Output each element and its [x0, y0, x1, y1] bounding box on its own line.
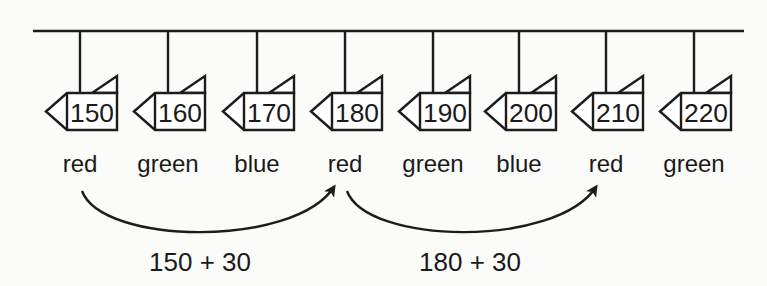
tag-value: 160: [158, 99, 202, 127]
tag-flag-icon: [618, 76, 643, 93]
diagram-canvas: 150red160green170blue180red190green200bl…: [0, 0, 767, 286]
array-stride-diagram: 150red160green170blue180red190green200bl…: [0, 0, 767, 286]
arrow-list: 150 + 30180 + 30: [82, 187, 596, 277]
tag-item: 210red: [572, 31, 643, 177]
tag-list: 150red160green170blue180red190green200bl…: [46, 31, 731, 177]
tag-item: 200blue: [485, 31, 556, 177]
color-label: blue: [496, 150, 541, 177]
curved-arrow-icon: [347, 187, 596, 232]
tag-flag-icon: [445, 76, 470, 93]
tag-item: 160green: [134, 31, 205, 177]
tag-item: 180red: [311, 31, 382, 177]
stride-arrow: 180 + 30: [347, 187, 596, 277]
tag-value: 210: [596, 99, 640, 127]
tag-flag-icon: [180, 76, 205, 93]
color-label: blue: [234, 150, 279, 177]
tag-value: 180: [335, 99, 379, 127]
tag-flag-icon: [357, 76, 382, 93]
curved-arrow-icon: [82, 187, 334, 232]
tag-value: 200: [509, 99, 553, 127]
tag-value: 150: [70, 99, 114, 127]
sum-label: 180 + 30: [419, 247, 521, 277]
tag-value: 190: [423, 99, 467, 127]
color-label: red: [328, 150, 363, 177]
sum-label: 150 + 30: [149, 247, 251, 277]
color-label: red: [63, 150, 98, 177]
color-label: green: [402, 150, 463, 177]
tag-item: 150red: [46, 31, 117, 177]
stride-arrow: 150 + 30: [82, 187, 334, 277]
color-label: green: [663, 150, 724, 177]
tag-flag-icon: [531, 76, 556, 93]
tag-item: 190green: [399, 31, 470, 177]
tag-value: 170: [247, 99, 291, 127]
tag-value: 220: [684, 99, 728, 127]
color-label: red: [589, 150, 624, 177]
color-label: green: [137, 150, 198, 177]
tag-flag-icon: [706, 76, 731, 93]
tag-item: 170blue: [223, 31, 294, 177]
tag-flag-icon: [269, 76, 294, 93]
tag-item: 220green: [660, 31, 731, 177]
tag-flag-icon: [92, 76, 117, 93]
